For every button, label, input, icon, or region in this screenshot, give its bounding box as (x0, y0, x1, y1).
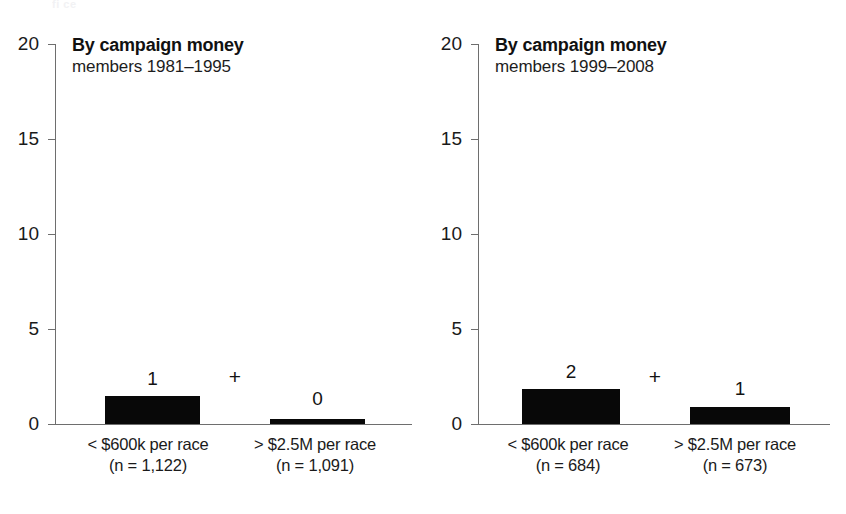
category-label: < $600k per race (n = 684) (478, 434, 658, 476)
y-tick-10: 10 (48, 234, 55, 235)
category-n: (n = 1,122) (58, 455, 238, 476)
y-tick-label-20: 20 (18, 34, 39, 54)
bar (105, 396, 200, 424)
category-name: < $600k per race (87, 435, 208, 453)
y-tick-0: 0 (471, 424, 478, 425)
y-tick-label-15: 15 (18, 129, 39, 149)
category-n: (n = 1,091) (225, 455, 405, 476)
significance-marker: + (200, 367, 270, 387)
significance-marker: + (620, 367, 690, 387)
bar-value-label: 1 (105, 369, 200, 389)
bar-value-label: 2 (522, 362, 620, 382)
y-tick-0: 0 (48, 424, 55, 425)
y-tick-15: 15 (471, 139, 478, 140)
category-label: > $2.5M per race (n = 673) (645, 434, 825, 476)
bar (690, 407, 790, 424)
chart-panel-left: By campaign money members 1981–1995 20 1… (0, 0, 423, 514)
category-label: < $600k per race (n = 1,122) (58, 434, 238, 476)
category-name: > $2.5M per race (674, 435, 796, 453)
chart-panel-right: By campaign money members 1999–2008 20 1… (423, 0, 846, 514)
category-label: > $2.5M per race (n = 1,091) (225, 434, 405, 476)
category-name: > $2.5M per race (254, 435, 376, 453)
y-tick-label-0: 0 (451, 414, 462, 434)
bar-value-label: 0 (270, 389, 365, 409)
x-axis (55, 424, 412, 425)
category-n: (n = 673) (645, 455, 825, 476)
y-axis (478, 44, 479, 424)
category-n: (n = 684) (478, 455, 658, 476)
figure-root: { "figure": { "top_cut_text": "fi ce", "… (0, 0, 846, 514)
y-tick-label-5: 5 (28, 319, 39, 339)
bar-value-label: 1 (690, 379, 790, 399)
category-name: < $600k per race (507, 435, 628, 453)
y-tick-label-5: 5 (451, 319, 462, 339)
y-tick-label-15: 15 (441, 129, 462, 149)
y-tick-5: 5 (48, 329, 55, 330)
y-tick-20: 20 (48, 44, 55, 45)
y-axis (55, 44, 56, 424)
y-tick-label-10: 10 (441, 224, 462, 244)
y-tick-label-20: 20 (441, 34, 462, 54)
y-tick-15: 15 (48, 139, 55, 140)
plot-area-right: 20 15 10 5 0 2 + 1 (478, 44, 830, 424)
bar (522, 389, 620, 424)
bar (270, 419, 365, 424)
y-tick-10: 10 (471, 234, 478, 235)
y-tick-label-0: 0 (28, 414, 39, 434)
plot-area-left: 20 15 10 5 0 1 + 0 (55, 44, 412, 424)
x-axis (478, 424, 830, 425)
y-tick-20: 20 (471, 44, 478, 45)
y-tick-5: 5 (471, 329, 478, 330)
y-tick-label-10: 10 (18, 224, 39, 244)
